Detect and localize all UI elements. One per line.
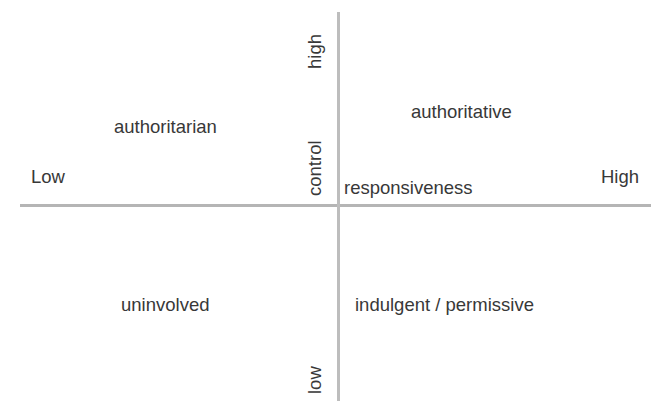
horizontal-axis-line <box>20 204 651 207</box>
vertical-axis-line <box>337 12 340 401</box>
x-axis-high-label: High <box>601 168 639 187</box>
x-axis-low-label: Low <box>31 168 65 187</box>
quadrant-label-uninvolved: uninvolved <box>121 296 209 315</box>
parenting-styles-quadrant-diagram: authoritarian authoritative uninvolved i… <box>0 0 670 411</box>
y-axis-high-label: high <box>306 34 325 69</box>
quadrant-label-authoritarian: authoritarian <box>114 118 217 137</box>
quadrant-label-authoritative: authoritative <box>411 103 512 122</box>
quadrant-label-indulgent-permissive: indulgent / permissive <box>355 296 534 315</box>
y-axis-low-label: low <box>306 366 325 394</box>
y-axis-title: control <box>306 140 325 196</box>
x-axis-title: responsiveness <box>344 179 473 198</box>
